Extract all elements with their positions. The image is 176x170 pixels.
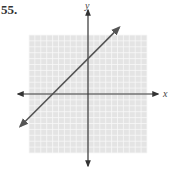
x-axis-label: x [162, 88, 168, 99]
y-axis-label: y [84, 0, 90, 11]
coordinate-plane: x y [0, 0, 176, 170]
